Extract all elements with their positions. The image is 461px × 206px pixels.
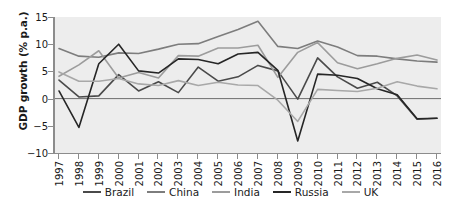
x-tick-label: 1998 <box>79 136 90 161</box>
legend-item-china[interactable]: China <box>147 186 199 198</box>
x-tick-mark <box>436 154 437 159</box>
x-tick-label: 2012 <box>357 136 368 161</box>
x-tick-mark <box>237 154 238 159</box>
x-tick-label: 2005 <box>218 136 229 161</box>
legend-swatch-icon <box>147 191 165 193</box>
y-tick-label: −10 <box>27 148 48 159</box>
legend-label: India <box>234 186 260 198</box>
legend-item-uk[interactable]: UK <box>342 186 379 198</box>
x-tick-mark <box>337 154 338 159</box>
x-tick-mark <box>118 154 119 159</box>
x-tick-mark <box>297 154 298 159</box>
x-tick-mark <box>277 154 278 159</box>
gdp-growth-line-chart: GDP growth (% p.a.) 151050−5−10 19971998… <box>0 0 461 206</box>
y-tick-mark <box>48 44 53 45</box>
x-tick-mark <box>177 154 178 159</box>
x-tick-mark <box>78 154 79 159</box>
x-tick-mark <box>197 154 198 159</box>
x-tick-label: 2004 <box>198 136 209 161</box>
x-tick-label: 2003 <box>178 136 189 161</box>
y-tick-label: 15 <box>35 12 48 23</box>
x-tick-label: 2006 <box>238 136 249 161</box>
y-tick-mark <box>48 71 53 72</box>
x-tick-mark <box>98 154 99 159</box>
legend-item-india[interactable]: India <box>212 186 260 198</box>
series-line-brazil <box>59 58 437 119</box>
x-tick-mark <box>138 154 139 159</box>
x-tick-label: 1997 <box>59 136 70 161</box>
legend-swatch-icon <box>212 191 230 193</box>
y-axis-tick-labels: 151050−5−10 <box>22 0 48 206</box>
x-tick-mark <box>58 154 59 159</box>
legend-label: China <box>169 186 199 198</box>
legend-swatch-icon <box>273 191 291 193</box>
x-tick-label: 2016 <box>437 136 448 161</box>
x-tick-mark <box>257 154 258 159</box>
x-tick-label: 2008 <box>278 136 289 161</box>
legend-swatch-icon <box>342 191 360 193</box>
legend-label: Brazil <box>105 186 134 198</box>
y-tick-mark <box>48 126 53 127</box>
x-tick-label: 2013 <box>377 136 388 161</box>
x-tick-label: 2002 <box>158 136 169 161</box>
x-tick-mark <box>396 154 397 159</box>
x-tick-label: 1999 <box>99 136 110 161</box>
x-tick-mark <box>416 154 417 159</box>
x-tick-label: 2015 <box>417 136 428 161</box>
x-tick-label: 2010 <box>318 136 329 161</box>
x-tick-mark <box>217 154 218 159</box>
y-tick-label: 10 <box>35 39 48 50</box>
x-tick-mark <box>317 154 318 159</box>
y-tick-mark <box>48 99 53 100</box>
x-tick-mark <box>157 154 158 159</box>
y-tick-label: −5 <box>33 120 48 131</box>
x-tick-label: 2007 <box>258 136 269 161</box>
series-line-china <box>59 21 437 62</box>
legend-label: UK <box>364 186 379 198</box>
series-lines <box>55 17 441 153</box>
legend-item-brazil[interactable]: Brazil <box>83 186 134 198</box>
series-line-russia <box>59 44 437 141</box>
legend-label: Russia <box>295 186 329 198</box>
plot-area <box>54 17 441 153</box>
y-tick-mark <box>48 153 53 154</box>
chart-legend: BrazilChinaIndiaRussiaUK <box>0 186 461 198</box>
series-line-uk <box>59 72 437 122</box>
legend-item-russia[interactable]: Russia <box>273 186 329 198</box>
legend-swatch-icon <box>83 191 101 193</box>
x-tick-label: 2009 <box>298 136 309 161</box>
y-tick-mark <box>48 17 53 18</box>
x-tick-label: 2000 <box>119 136 130 161</box>
x-tick-label: 2001 <box>139 136 150 161</box>
x-tick-label: 2014 <box>397 136 408 161</box>
x-tick-label: 2011 <box>338 136 349 161</box>
x-tick-mark <box>376 154 377 159</box>
x-tick-mark <box>356 154 357 159</box>
